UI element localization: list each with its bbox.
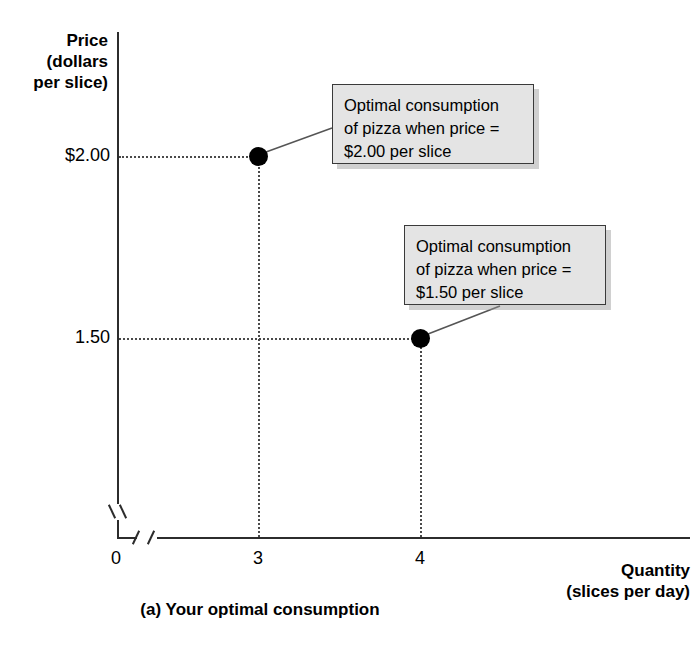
leader-line-callout-2-00 — [266, 128, 332, 152]
callout-box-price-1-50: Optimal consumption of pizza when price … — [404, 225, 606, 305]
x-tick-label-0: 0 — [96, 548, 136, 569]
guideline-horizontal-1-50 — [119, 338, 421, 340]
y-axis-break-mark-upper — [108, 504, 116, 518]
y-axis-break-mark-lower — [119, 504, 127, 518]
y-axis-line — [117, 32, 119, 504]
callout-box-price-2-00: Optimal consumption of pizza when price … — [332, 84, 534, 164]
data-point-qty-4-price-1-50[interactable] — [411, 329, 430, 348]
x-tick-label-4: 4 — [400, 548, 440, 569]
leader-line-callout-1-50 — [428, 306, 500, 334]
x-axis-break-mark-right — [147, 530, 155, 544]
figure-caption: (a) Your optimal consumption — [60, 600, 460, 620]
data-point-qty-3-price-2-00[interactable] — [249, 147, 268, 166]
y-axis-title: Price (dollars per slice) — [0, 30, 108, 93]
guideline-vertical-qty-4 — [420, 340, 422, 537]
x-axis-line — [157, 537, 690, 539]
x-axis-title: Quantity (slices per day) — [452, 560, 690, 602]
chart-figure: Price (dollars per slice) Quantity (slic… — [0, 0, 698, 646]
x-tick-label-3: 3 — [238, 548, 278, 569]
guideline-vertical-qty-3 — [258, 158, 260, 537]
y-tick-label-2-00: $2.00 — [18, 145, 110, 166]
guideline-horizontal-2-00 — [119, 156, 259, 158]
y-tick-label-1-50: 1.50 — [18, 327, 110, 348]
